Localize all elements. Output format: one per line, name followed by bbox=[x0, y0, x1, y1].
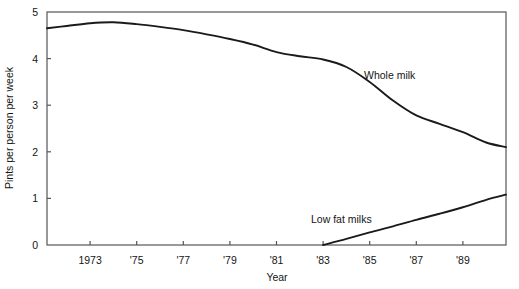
x-tick-label: '77 bbox=[176, 254, 190, 266]
y-axis-tick-labels: 012345 bbox=[32, 6, 38, 251]
x-axis-title: Year bbox=[266, 271, 288, 283]
x-tick-label: '89 bbox=[456, 254, 470, 266]
y-tick-label: 3 bbox=[32, 99, 38, 111]
x-tick-label: '81 bbox=[270, 254, 284, 266]
y-tick-label: 4 bbox=[32, 53, 38, 65]
x-tick-label: '83 bbox=[316, 254, 330, 266]
x-axis-tick-labels: 1973'75'77'79'81'83'85'87'89 bbox=[78, 254, 469, 266]
x-tick-label: '87 bbox=[409, 254, 423, 266]
chart-canvas: 012345 1973'75'77'79'81'83'85'87'89 Pint… bbox=[0, 0, 519, 289]
plot-border bbox=[47, 12, 506, 245]
plot-frame bbox=[47, 12, 506, 245]
x-tick-label: '85 bbox=[363, 254, 377, 266]
x-tick-label: '79 bbox=[223, 254, 237, 266]
series-label-low-fat-milks: Low fat milks bbox=[311, 213, 372, 225]
y-axis-title: Pints per person per week bbox=[3, 66, 15, 189]
y-tick-label: 5 bbox=[32, 6, 38, 18]
series-line-whole-milk bbox=[47, 22, 506, 147]
y-tick-label: 2 bbox=[32, 146, 38, 158]
x-tick-label: '75 bbox=[130, 254, 144, 266]
y-tick-label: 1 bbox=[32, 192, 38, 204]
data-series-group bbox=[47, 22, 506, 245]
x-axis-ticks bbox=[90, 241, 463, 245]
milk-consumption-chart: 012345 1973'75'77'79'81'83'85'87'89 Pint… bbox=[0, 0, 519, 289]
y-tick-label: 0 bbox=[32, 239, 38, 251]
series-label-whole-milk: Whole milk bbox=[364, 69, 416, 81]
x-tick-label: 1973 bbox=[78, 254, 102, 266]
